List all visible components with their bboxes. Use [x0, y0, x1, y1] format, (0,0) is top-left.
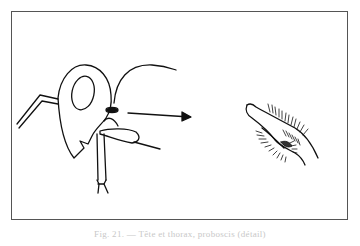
figure-caption: Fig. 21. — Tête et thorax, proboscis (dé…: [0, 229, 360, 239]
head-thorax-drawing: [17, 65, 176, 193]
arrow-icon: [128, 112, 191, 121]
proboscis-detail-drawing: [246, 104, 318, 165]
figure-illustration: [0, 0, 360, 246]
